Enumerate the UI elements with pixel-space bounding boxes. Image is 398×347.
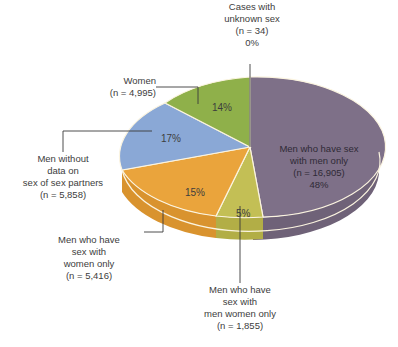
label-line: with men only (268, 155, 370, 167)
label-line: unknown sex (214, 13, 290, 25)
label-line: Men who have (44, 234, 134, 246)
pct-women: 14% (212, 102, 232, 113)
pct-men-sex-with-men-women-only: 5% (236, 208, 250, 219)
label-men-without-data: Men without data on sex of sex partners … (4, 153, 122, 201)
label-line: sex of sex partners (4, 177, 122, 189)
label-line: (n = 1,855) (192, 320, 288, 332)
label-line: women only (44, 258, 134, 270)
label-line: (n = 16,905) (268, 167, 370, 179)
label-men-sex-with-women-only: Men who have sex with women only (n = 5,… (44, 234, 134, 282)
label-line: Men who have (192, 284, 288, 296)
label-line: Women (90, 75, 156, 87)
label-men-sex-with-men-women-only: Men who have sex with men women only (n … (192, 284, 288, 332)
label-line: sex with (44, 246, 134, 258)
label-unknown-sex: Cases with unknown sex (n = 34) 0% (214, 1, 290, 49)
label-line: Men without (4, 153, 122, 165)
label-line: sex with (192, 296, 288, 308)
label-line: men women only (192, 308, 288, 320)
label-line: Men who have sex (268, 143, 370, 155)
label-line: (n = 4,995) (90, 87, 156, 99)
label-line: (n = 5,416) (44, 270, 134, 282)
label-women: Women (n = 4,995) (90, 75, 156, 99)
label-men-sex-with-men-only: Men who have sex with men only (n = 16,9… (268, 143, 370, 191)
slice-side-msmw (216, 216, 263, 240)
label-pct: 0% (214, 37, 290, 49)
pct-men-sex-with-women-only: 15% (185, 187, 205, 198)
label-pct: 48% (268, 179, 370, 191)
label-line: data on (4, 165, 122, 177)
label-line: (n = 34) (214, 25, 290, 37)
pct-men-without-data: 17% (161, 133, 181, 144)
label-line: Cases with (214, 1, 290, 13)
label-line: (n = 5,858) (4, 189, 122, 201)
